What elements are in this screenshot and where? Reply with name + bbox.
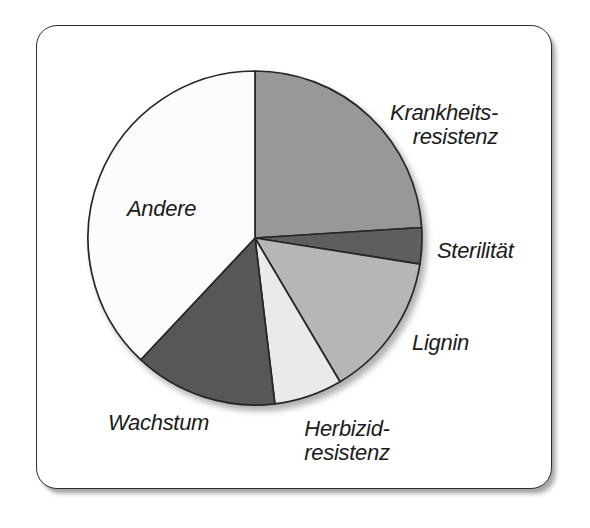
page: Krankheits- resistenz Sterilität Lignin … (0, 0, 590, 528)
pie-chart (0, 0, 590, 528)
slice-label-wachstum: Wachstum (108, 411, 209, 435)
slice-label-herbizidresistenz: Herbizid- resistenz (304, 417, 389, 465)
slice-label-lignin: Lignin (412, 331, 469, 355)
pie-slice-krankheitsresistenz (255, 71, 422, 238)
slice-label-krankheitsresistenz: Krankheits- resistenz (390, 101, 498, 149)
slice-label-andere: Andere (127, 197, 196, 221)
slice-label-sterilitaet: Sterilität (437, 239, 513, 263)
